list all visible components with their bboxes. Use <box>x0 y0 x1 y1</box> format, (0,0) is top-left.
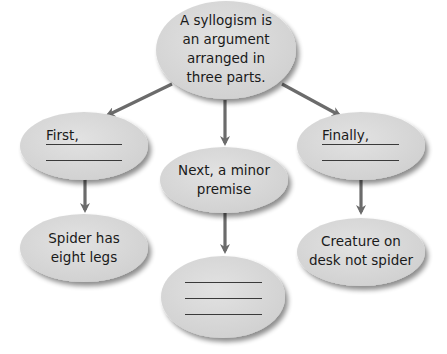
spider-text: Spider has eight legs <box>24 229 144 267</box>
minor-blank-3 <box>185 314 262 315</box>
root-line-1: A syllogism is <box>166 11 286 30</box>
minor-blank-1 <box>185 282 262 283</box>
node-first <box>20 112 148 180</box>
spider-line-1: Spider has <box>24 229 144 248</box>
next-text: Next, a minor premise <box>164 161 284 199</box>
minor-blank-2 <box>185 298 262 299</box>
finally-blank-1 <box>322 144 399 145</box>
first-label: First, <box>46 127 79 143</box>
root-line-4: three parts. <box>166 68 286 87</box>
node-finally <box>297 112 425 180</box>
creature-line-1: Creature on <box>296 232 426 251</box>
creature-text: Creature on desk not spider <box>296 232 426 270</box>
finally-blank-2 <box>322 160 399 161</box>
root-line-3: arranged in <box>166 49 286 68</box>
next-line-2: premise <box>164 180 284 199</box>
first-blank-1 <box>46 144 122 145</box>
root-text: A syllogism is an argument arranged in t… <box>166 11 286 87</box>
arrow-root-to-finally <box>282 84 339 115</box>
first-blank-2 <box>46 160 122 161</box>
finally-label: Finally, <box>322 127 369 143</box>
next-line-1: Next, a minor <box>164 161 284 180</box>
arrow-root-to-first <box>108 84 172 115</box>
creature-line-2: desk not spider <box>296 251 426 270</box>
spider-line-2: eight legs <box>24 248 144 267</box>
node-minor-blank <box>161 256 285 338</box>
root-line-2: an argument <box>166 30 286 49</box>
